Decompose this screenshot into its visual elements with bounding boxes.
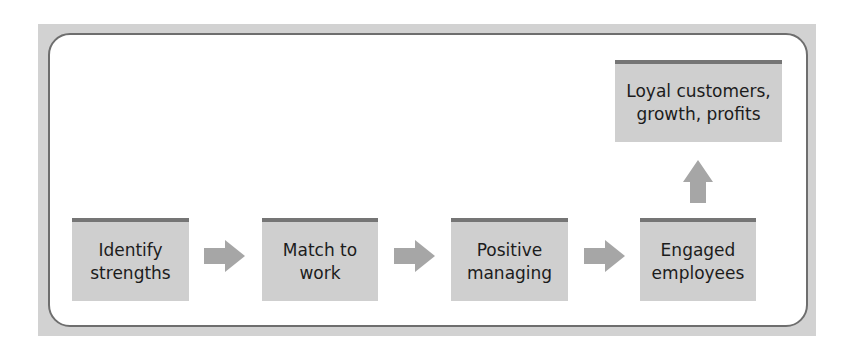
- step-positive-managing: Positive managing: [451, 218, 568, 301]
- arrow-right-icon: [584, 240, 625, 272]
- arrow-right-icon: [394, 240, 435, 272]
- step-label: Positive managing: [467, 239, 552, 285]
- step-identify-strengths: Identify strengths: [72, 218, 189, 301]
- step-label: Match to work: [283, 239, 357, 285]
- step-label: Engaged employees: [652, 239, 745, 285]
- arrow-up-icon: [683, 160, 713, 203]
- arrow-right-icon: [204, 240, 245, 272]
- outcome-label: Loyal customers, growth, profits: [626, 80, 771, 126]
- outcome-loyal-customers: Loyal customers, growth, profits: [615, 60, 782, 142]
- step-match-to-work: Match to work: [262, 218, 378, 301]
- step-engaged-employees: Engaged employees: [640, 218, 756, 301]
- step-label: Identify strengths: [90, 239, 170, 285]
